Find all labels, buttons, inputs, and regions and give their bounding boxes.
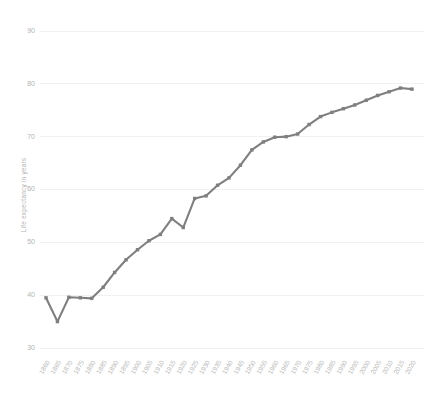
y-axis-tick-label: 80	[27, 80, 35, 87]
data-point-marker	[353, 103, 356, 106]
data-point-marker	[307, 123, 310, 126]
chart-canvas: 30405060708090 1860186518701875188018851…	[0, 0, 436, 404]
y-axis-tick-label: 70	[27, 133, 35, 140]
data-point-marker	[342, 107, 345, 110]
data-point-marker	[182, 226, 185, 229]
data-point-marker	[410, 87, 413, 90]
data-point-marker	[170, 217, 173, 220]
data-point-marker	[239, 164, 242, 167]
data-point-marker	[284, 135, 287, 138]
data-point-marker	[296, 132, 299, 135]
y-axis-tick-label: 90	[27, 27, 35, 34]
data-point-marker	[204, 194, 207, 197]
data-point-marker	[67, 296, 70, 299]
data-point-marker	[330, 111, 333, 114]
y-axis-tick-label: 30	[27, 344, 35, 351]
y-axis-tick-label: 60	[27, 185, 35, 192]
data-point-marker	[159, 233, 162, 236]
data-point-marker	[376, 94, 379, 97]
data-point-marker	[227, 176, 230, 179]
data-point-marker	[44, 296, 47, 299]
y-axis-tick-labels: 30405060708090	[27, 27, 35, 351]
data-point-marker	[262, 140, 265, 143]
data-point-marker	[90, 297, 93, 300]
life-expectancy-line	[46, 88, 412, 322]
data-point-marker	[136, 248, 139, 251]
data-point-marker	[101, 286, 104, 289]
y-axis-title: Life expectancy in years	[20, 158, 28, 233]
data-point-marker	[124, 258, 127, 261]
gridlines-group	[40, 31, 424, 348]
data-point-marker	[399, 86, 402, 89]
data-point-marker	[147, 239, 150, 242]
data-point-marker	[387, 90, 390, 93]
data-point-marker	[250, 148, 253, 151]
data-point-marker	[273, 135, 276, 138]
data-point-markers	[44, 86, 413, 323]
data-point-marker	[216, 184, 219, 187]
y-axis-tick-label: 50	[27, 238, 35, 245]
data-point-marker	[79, 296, 82, 299]
y-axis-tick-label: 40	[27, 291, 35, 298]
data-point-marker	[365, 99, 368, 102]
data-point-marker	[193, 197, 196, 200]
x-axis-tick-labels: 1860186518701875188018851890189519001905…	[37, 359, 417, 375]
life-expectancy-chart: 30405060708090 1860186518701875188018851…	[0, 0, 436, 404]
data-point-marker	[113, 271, 116, 274]
data-point-marker	[56, 320, 59, 323]
x-axis-tick-label: 2020	[403, 359, 417, 375]
data-point-marker	[319, 115, 322, 118]
